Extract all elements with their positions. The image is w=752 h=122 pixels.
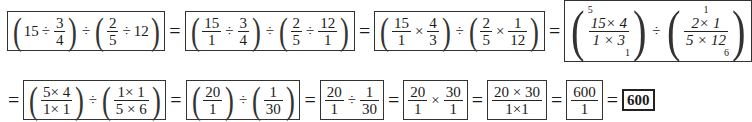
numerator: 12 xyxy=(318,15,337,31)
right-paren: ) xyxy=(68,12,77,50)
numerator: 20 xyxy=(203,84,222,100)
group: ( 151 × 43 ) xyxy=(378,12,452,50)
denominator: 30 xyxy=(360,101,379,117)
right-paren: ) xyxy=(442,12,451,50)
equals-sign: = xyxy=(472,90,483,110)
left-paren: ( xyxy=(571,2,585,60)
right-paren: ) xyxy=(633,2,647,60)
denominator: 5 xyxy=(107,32,119,48)
equation-row-2: = ( 5× 41× 1 ) ÷ ( 1× 15 × 6 ) = ( 201 )… xyxy=(4,79,655,121)
right-paren: ) xyxy=(252,12,261,50)
numerator: 2 xyxy=(480,15,492,31)
left-paren: ( xyxy=(13,12,22,50)
right-paren: ) xyxy=(530,12,539,50)
denominator: 5 xyxy=(291,32,303,48)
step-5-box: ( 5× 41× 1 ) ÷ ( 1× 15 × 6 ) xyxy=(23,80,166,120)
denominator: 1 xyxy=(447,101,459,117)
denominator: 5 xyxy=(480,32,492,48)
group: ( 5× 41× 1 ) xyxy=(27,81,86,119)
fraction: 121 xyxy=(318,15,337,48)
denominator: 1×1 xyxy=(503,101,530,117)
fraction: 34 xyxy=(238,15,250,48)
final-answer-box: 600 xyxy=(622,89,655,111)
group: ( 130 ) xyxy=(250,81,296,119)
group: ( 1× 15 × 6 ) xyxy=(100,81,162,119)
operator: × xyxy=(431,93,439,108)
numerator: 1 xyxy=(268,84,280,100)
fraction: 20 × 301×1 xyxy=(492,84,542,117)
numerator: 5× 4 xyxy=(41,84,72,100)
numerator: 600 xyxy=(571,84,598,100)
equals-sign: = xyxy=(607,90,618,110)
number: 12 xyxy=(134,23,149,40)
left-paren: ( xyxy=(95,12,104,50)
equals-sign: = xyxy=(551,90,562,110)
numerator: 1 xyxy=(364,84,376,100)
fraction: 25 xyxy=(291,15,303,48)
step-3-box: ( 151 × 43 ) ÷ ( 25 × 112 ) xyxy=(374,11,545,51)
equals-sign: = xyxy=(8,90,19,110)
group: ( 25 ÷ 12 ) xyxy=(93,12,161,50)
operator: ÷ xyxy=(239,93,247,108)
fraction: 130 xyxy=(360,84,379,117)
denominator: 5 × 6 xyxy=(114,101,149,117)
operator: × xyxy=(415,24,423,39)
fraction: 201 xyxy=(325,84,344,117)
step-4-box: ( 5 15× 41 × 3 1 ) ÷ ( 1 2× 15 × 12 6 ) xyxy=(564,0,752,62)
numerator: 3 xyxy=(238,15,250,31)
left-paren: ( xyxy=(192,81,201,119)
denominator: 1 xyxy=(396,32,408,48)
fraction: 1× 15 × 6 xyxy=(114,84,149,117)
numerator: 15 xyxy=(392,15,411,31)
fraction: 130 xyxy=(264,84,283,117)
denominator: 30 xyxy=(264,101,283,117)
numerator: 2 xyxy=(107,15,119,31)
group: ( 1 2× 15 × 12 6 ) xyxy=(664,2,749,60)
step-2-box: ( 151 ÷ 34 ) ÷ ( 25 ÷ 121 ) xyxy=(185,11,355,51)
right-paren: ) xyxy=(152,81,161,119)
equals-sign: = xyxy=(169,21,180,41)
right-paren: ) xyxy=(732,2,746,60)
denominator: 1 xyxy=(206,32,218,48)
equals-sign: = xyxy=(304,90,315,110)
numerator: 20 × 30 xyxy=(492,84,542,100)
denominator: 12 xyxy=(508,32,527,48)
group: ( 25 × 112 ) xyxy=(467,12,541,50)
right-paren: ) xyxy=(151,12,160,50)
fraction: 112 xyxy=(508,15,527,48)
numerator: 15× 4 xyxy=(589,15,629,31)
numerator: 4 xyxy=(427,15,439,31)
denominator: 1× 1 xyxy=(41,101,72,117)
operator: ÷ xyxy=(456,24,464,39)
fraction: 201 xyxy=(408,84,427,117)
fraction: 25 xyxy=(480,15,492,48)
numerator: 2× 1 xyxy=(690,15,723,31)
fraction: 15× 41 × 3 xyxy=(589,15,629,48)
denominator: 1 xyxy=(207,101,219,117)
denominator: 1 × 3 xyxy=(591,32,628,48)
cancel-result: 6 xyxy=(724,48,729,58)
numerator: 15 xyxy=(202,15,221,31)
right-paren: ) xyxy=(75,81,84,119)
group: ( 25 ÷ 121 ) xyxy=(277,12,351,50)
right-paren: ) xyxy=(340,12,349,50)
left-paren: ( xyxy=(666,2,680,60)
denominator: 4 xyxy=(238,32,250,48)
fraction: 151 xyxy=(392,15,411,48)
numerator: 3 xyxy=(54,15,66,31)
operator: ÷ xyxy=(306,24,314,39)
equals-sign: = xyxy=(359,21,370,41)
cancel-result: 1 xyxy=(625,48,630,58)
numerator: 1× 1 xyxy=(116,84,147,100)
fraction: 43 xyxy=(427,15,439,48)
cancel-result: 1 xyxy=(703,5,708,15)
right-paren: ) xyxy=(225,81,234,119)
operator: ÷ xyxy=(266,24,274,39)
denominator: 1 xyxy=(579,101,591,117)
cancel-result: 5 xyxy=(588,5,593,15)
group: ( 5 15× 41 × 3 1 ) xyxy=(568,2,649,60)
step-9-box: 20 × 301×1 xyxy=(487,80,547,120)
equals-sign: = xyxy=(549,21,560,41)
denominator: 1 xyxy=(412,101,424,117)
operator: ÷ xyxy=(652,24,660,39)
